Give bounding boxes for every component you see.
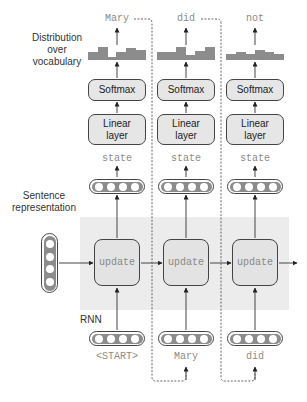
connector-overlay [0, 0, 307, 402]
